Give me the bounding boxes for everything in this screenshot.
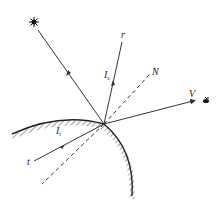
label-t: t [27, 156, 30, 167]
label-is: Is [103, 69, 110, 81]
eye-icon [203, 97, 209, 103]
transmitted-ray [34, 124, 104, 161]
reflection-diagram: r Is N V It t [0, 0, 222, 203]
reflected-ray [104, 42, 122, 124]
label-it: It [55, 125, 61, 137]
label-r: r [121, 29, 125, 40]
view-vector [104, 101, 193, 124]
incident-ray [38, 30, 104, 124]
surface [12, 120, 132, 199]
label-n: N [151, 66, 160, 77]
label-v: V [189, 88, 197, 99]
sun-icon [29, 17, 39, 27]
refraction-dashed-line [42, 124, 104, 184]
normal-line [104, 74, 150, 124]
